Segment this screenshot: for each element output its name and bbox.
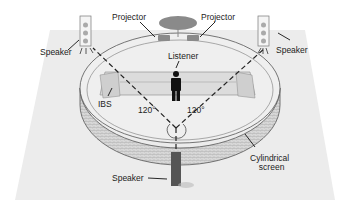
label-angle-left: 120°: [138, 106, 156, 115]
diagram-canvas: [0, 0, 355, 210]
label-projector-right: Projector: [201, 13, 235, 22]
label-speaker-right: Speaker: [276, 46, 308, 55]
label-speaker-front: Speaker: [112, 174, 144, 183]
label-speaker-left: Speaker: [40, 48, 72, 57]
setup-diagram: Projector Projector Speaker Speaker List…: [0, 0, 355, 210]
label-ibs: IBS: [98, 100, 112, 109]
label-listener: Listener: [168, 52, 198, 61]
label-screen-line2: screen: [259, 163, 285, 172]
label-angle-right: 120°: [187, 106, 205, 115]
label-cylindrical-screen: Cylindrical screen: [250, 154, 289, 171]
label-projector-left: Projector: [112, 13, 146, 22]
